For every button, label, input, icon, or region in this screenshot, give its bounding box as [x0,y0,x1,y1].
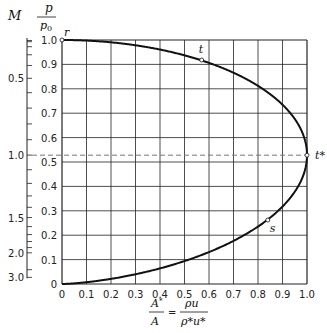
y-tick-label: 0.4 [41,181,57,192]
y-tick-label: 0 [51,279,57,290]
mach-tick-label: 0.5 [8,73,24,84]
svg-text:=: = [168,307,176,318]
x-tick-label: 0.7 [226,289,242,300]
mach-tick-label: 3.0 [8,272,24,283]
y-tick-label: 0.2 [41,230,57,241]
annotation-label: s [270,222,276,235]
x-tick-label: 0 [59,289,65,300]
x-label-den: A [150,315,159,328]
annotation-point [305,153,309,157]
y-tick-label: 0.8 [41,84,57,95]
annotation-label: t* [315,149,325,162]
mach-tick-label: 2.0 [8,248,24,259]
mach-scale: 0.51.01.52.03.0 [8,38,32,283]
y-tick-label: 0.9 [41,59,57,70]
m-axis-label: M [7,8,22,23]
y-tick-label: 0.6 [41,133,57,144]
y-tick-label: 0.7 [41,108,57,119]
x-tick-label: 0.9 [275,289,291,300]
mach-tick-label: 1.5 [8,213,24,224]
mach-tick-label: 1.0 [8,150,24,161]
y-label-den: p0 [40,19,52,33]
y-tick-label: 0.3 [41,206,57,217]
y-label-num: p [45,1,53,15]
annotation-point [200,58,204,62]
x-tick-label: 0.8 [250,289,266,300]
y-tick-label: 0.1 [41,255,57,266]
x-label-eq-num: ρu [184,297,199,310]
x-tick-label: 0.2 [103,289,119,300]
y-tick-label: 0.5 [41,157,57,168]
x-tick-label: 0.1 [79,289,95,300]
x-label-num: A* [150,297,163,310]
y-tick-label: 1.0 [41,35,57,46]
annotation-label: t [199,43,204,56]
grid: 00.10.20.30.40.50.60.70.80.91.000.10.20.… [41,35,315,300]
x-label-eq-den: ρ*u* [180,315,206,328]
annotation-label: r [64,26,70,39]
x-tick-label: 0.3 [128,289,144,300]
isentropic-flow-chart: 00.10.20.30.40.50.60.70.80.91.000.10.20.… [0,0,327,333]
x-tick-label: 0.6 [201,289,217,300]
x-tick-label: 1.0 [299,289,315,300]
